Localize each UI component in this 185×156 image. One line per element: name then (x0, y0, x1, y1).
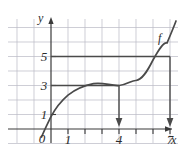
ytick-label-5: 5 (41, 49, 48, 64)
grid-lines (8, 19, 178, 144)
figure-graph-of-f: y x f 0 1 4 7 1 3 5 (0, 0, 185, 156)
x-axis-arrowhead (165, 126, 172, 131)
guide-arrowhead-x7 (167, 118, 174, 127)
xtick-label-7: 7 (167, 132, 174, 147)
guide-lines (51, 57, 170, 121)
origin-label: 0 (39, 131, 46, 146)
axes (8, 20, 172, 143)
guide-arrowhead-x4 (116, 118, 123, 127)
function-curve-f (42, 21, 176, 137)
curve-label-f: f (158, 31, 163, 45)
ytick-label-3: 3 (40, 78, 48, 93)
xtick-label-4: 4 (116, 132, 123, 147)
ytick-label-1: 1 (41, 107, 48, 122)
xtick-label-1: 1 (65, 132, 72, 147)
y-axis-label: y (37, 11, 44, 25)
y-axis-arrowhead (48, 17, 53, 24)
